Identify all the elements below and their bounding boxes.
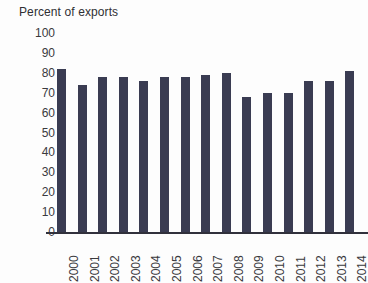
bar-2007	[201, 75, 210, 232]
bar-2001	[78, 85, 87, 232]
y-axis-tick-70: 70	[15, 87, 55, 99]
x-axis-tick-2013: 2013	[336, 255, 348, 282]
bar-chart: Percent of exports 100908070605040302010…	[0, 0, 368, 283]
y-axis-tick-50: 50	[15, 127, 55, 139]
bar-2012	[304, 81, 313, 232]
x-axis-tick-2007: 2007	[212, 255, 224, 282]
y-axis-tick-100: 100	[15, 27, 55, 39]
x-axis-tick-2004: 2004	[150, 255, 162, 282]
bar-2004	[139, 81, 148, 232]
y-axis-tick-20: 20	[15, 186, 55, 198]
x-axis-tick-2012: 2012	[315, 255, 327, 282]
bar-2014	[345, 71, 354, 232]
bar-2011	[284, 93, 293, 232]
bar-2013	[325, 81, 334, 232]
x-axis-tick-2010: 2010	[274, 255, 286, 282]
y-axis-tick-30: 30	[15, 166, 55, 178]
y-axis-tick-10: 10	[15, 206, 55, 218]
y-axis-tick-60: 60	[15, 107, 55, 119]
bar-2006	[181, 77, 190, 232]
x-axis-tick-2005: 2005	[171, 255, 183, 282]
bar-2009	[242, 97, 251, 232]
x-axis-tick-2014: 2014	[356, 255, 368, 282]
x-axis-tick-2009: 2009	[253, 255, 265, 282]
bar-2005	[160, 77, 169, 232]
y-axis-tick-40: 40	[15, 146, 55, 158]
x-axis-tick-2006: 2006	[192, 255, 204, 282]
y-axis-tick-80: 80	[15, 67, 55, 79]
y-axis-tick-90: 90	[15, 47, 55, 59]
x-axis-line	[46, 232, 368, 234]
bar-2010	[263, 93, 272, 232]
bar-2003	[119, 77, 128, 232]
x-axis-tick-2003: 2003	[130, 255, 142, 282]
x-axis-tick-2011: 2011	[295, 256, 307, 282]
x-axis-tick-2000: 2000	[68, 255, 80, 282]
bar-2000	[57, 69, 66, 232]
x-axis-tick-2008: 2008	[233, 255, 245, 282]
bar-2002	[98, 77, 107, 232]
plot-area: 1009080706050403020100 20002001200220032…	[0, 0, 368, 283]
x-axis-tick-2001: 2001	[89, 255, 101, 282]
x-axis-tick-2002: 2002	[109, 255, 121, 282]
bar-2008	[222, 73, 231, 232]
